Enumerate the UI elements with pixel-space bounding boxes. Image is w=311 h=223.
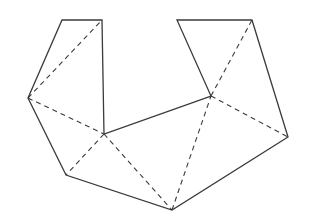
polygon-outline: [28, 20, 288, 210]
diagram-svg: [0, 0, 311, 223]
polygon-boundary: [28, 20, 288, 210]
diagonal-F-J: [172, 96, 211, 210]
diagonal-C-B: [28, 20, 102, 98]
diagonal-J-H: [211, 20, 252, 96]
diagonal-C-D: [28, 98, 104, 134]
triangulated-polygon-diagram: [0, 0, 311, 223]
diagonal-J-G: [211, 96, 288, 137]
diagonal-D-E: [66, 134, 104, 175]
